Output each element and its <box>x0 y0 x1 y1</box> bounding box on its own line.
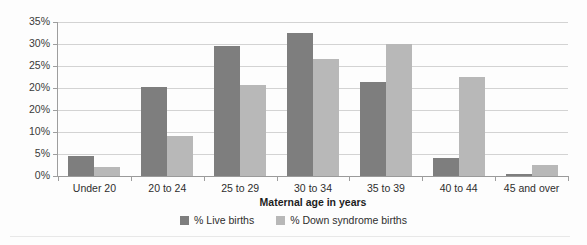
legend-swatch-icon <box>276 216 285 225</box>
legend-swatch-icon <box>180 216 189 225</box>
y-axis-tick <box>53 44 58 45</box>
y-axis-tick-label: 10% <box>10 126 50 137</box>
x-axis-ticks <box>58 176 568 181</box>
x-axis-tick <box>131 176 132 181</box>
bar-group <box>277 22 350 176</box>
bar <box>287 33 313 176</box>
x-axis-tick <box>495 176 496 181</box>
y-axis-tick-label: 20% <box>10 104 50 115</box>
legend-entry: % Live births <box>180 214 254 226</box>
bar <box>240 85 266 176</box>
bar <box>459 77 485 176</box>
x-axis-tick <box>422 176 423 181</box>
bar-group <box>58 22 131 176</box>
bar-group <box>495 22 568 176</box>
bar-chart: 35%30%25%20%20%10%5%0% Under 2020 to 242… <box>0 0 587 245</box>
bar-group <box>131 22 204 176</box>
x-axis-category-label: Under 20 <box>58 182 131 194</box>
bar <box>94 167 120 176</box>
y-axis-tick <box>53 132 58 133</box>
x-axis-category-label: 25 to 29 <box>204 182 277 194</box>
bar <box>386 44 412 176</box>
x-axis-labels: Under 2020 to 2425 to 2930 to 3435 to 39… <box>58 182 568 194</box>
bar <box>141 87 167 176</box>
bar-group <box>349 22 422 176</box>
bar-group <box>422 22 495 176</box>
y-axis-tick-label: 20% <box>10 82 50 93</box>
x-axis-tick <box>568 176 569 181</box>
x-axis-category-label: 20 to 24 <box>131 182 204 194</box>
y-axis-tick-label: 30% <box>10 38 50 49</box>
bar-groups <box>58 22 568 176</box>
y-axis-tick-label: 5% <box>10 148 50 159</box>
legend-entry: % Down syndrome births <box>276 214 407 226</box>
x-axis-title: Maternal age in years <box>58 196 568 208</box>
x-axis-tick <box>277 176 278 181</box>
x-axis-category-label: 45 and over <box>495 182 568 194</box>
y-axis-tick <box>53 176 58 177</box>
y-axis-tick-label: 35% <box>10 16 50 27</box>
bottom-divider <box>10 236 570 237</box>
legend-label: % Live births <box>194 214 254 226</box>
bar <box>167 136 193 176</box>
y-axis-tick <box>53 110 58 111</box>
x-axis-tick <box>58 176 59 181</box>
bar <box>360 82 386 176</box>
y-axis-tick <box>53 154 58 155</box>
y-axis-tick <box>53 22 58 23</box>
x-axis-category-label: 35 to 39 <box>349 182 422 194</box>
x-axis-tick <box>204 176 205 181</box>
y-axis-tick-label: 25% <box>10 60 50 71</box>
bar <box>313 59 339 176</box>
chart-legend: % Live births% Down syndrome births <box>0 214 587 226</box>
y-axis-tick-label: 0% <box>10 170 50 181</box>
x-axis-category-label: 40 to 44 <box>422 182 495 194</box>
bar <box>433 158 459 176</box>
bar-group <box>204 22 277 176</box>
y-axis-tick <box>53 66 58 67</box>
x-axis-category-label: 30 to 34 <box>277 182 350 194</box>
bar <box>532 165 558 176</box>
legend-label: % Down syndrome births <box>290 214 407 226</box>
y-axis-tick <box>53 88 58 89</box>
bar <box>68 156 94 176</box>
y-axis-labels: 35%30%25%20%20%10%5%0% <box>8 0 50 245</box>
bar <box>214 46 240 176</box>
x-axis-tick <box>349 176 350 181</box>
